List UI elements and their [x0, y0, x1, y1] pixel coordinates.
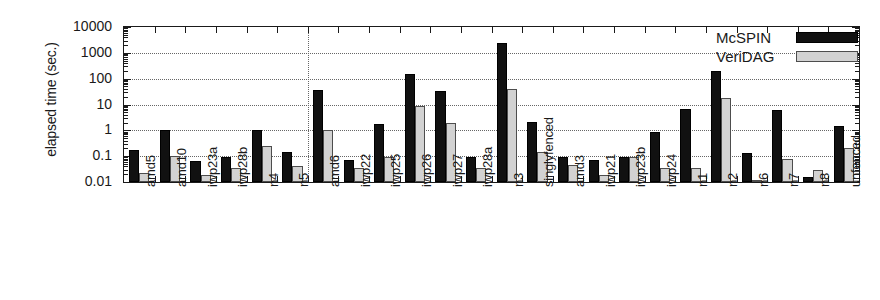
x-axis-tick-label: n3: [511, 173, 526, 187]
x-axis-tick-label: unfenced: [848, 135, 863, 187]
y-axis-minor-tick: [124, 134, 128, 135]
x-axis-tick-label: amd6: [327, 155, 342, 187]
y-axis-minor-tick: [124, 123, 128, 124]
x-axis-tick-label: amd10: [174, 148, 189, 187]
y-axis-tick-label: 10: [96, 96, 112, 112]
y-axis-tick-label: 0.01: [85, 173, 112, 189]
y-axis-minor-tick: [124, 63, 128, 64]
x-axis-tick-label: iwp27: [450, 154, 465, 187]
y-axis-minor-tick: [124, 97, 128, 98]
y-axis-minor-tick: [124, 160, 128, 161]
x-axis-tick-label: iwp28a: [480, 147, 495, 187]
y-axis-minor-tick: [855, 86, 859, 87]
x-axis-tick-label: iwp21: [603, 154, 618, 187]
y-axis-minor-tick: [124, 133, 128, 134]
x-axis-tick-label: n4: [266, 173, 281, 187]
x-axis-tick-mark: [369, 27, 370, 33]
chart-figure: elapsed time (sec.) 0.010.11101001000100…: [0, 0, 880, 300]
bar-mcspin-n7: [772, 110, 782, 182]
y-axis-minor-tick: [855, 89, 859, 90]
x-axis-tick-label: iwp26: [419, 154, 434, 187]
y-axis-minor-tick: [124, 55, 128, 56]
x-axis-tick-mark: [706, 27, 707, 33]
y-axis-minor-tick: [124, 118, 128, 119]
y-axis-minor-tick: [124, 83, 128, 84]
x-axis-tick-label: n1: [695, 173, 710, 187]
bar-mcspin-iwp24: [650, 132, 660, 182]
y-axis-minor-tick: [124, 159, 128, 160]
bar-mcspin-iwp28a: [466, 157, 476, 182]
x-axis-tick-mark: [553, 27, 554, 33]
x-axis-tick-mark: [185, 27, 186, 33]
x-axis-tick-mark: [216, 27, 217, 33]
bar-mcspin-iwp26: [405, 74, 415, 182]
bar-mcspin-n4: [252, 130, 262, 182]
group-separator-line: [308, 27, 309, 182]
y-axis-minor-tick: [855, 92, 859, 93]
x-axis-tick-mark: [675, 27, 676, 33]
y-axis-minor-tick: [124, 89, 128, 90]
bar-mcspin-amd6: [313, 90, 323, 182]
y-axis-minor-tick: [124, 80, 128, 81]
bar-mcspin-amd3: [558, 157, 568, 182]
y-axis-minor-tick: [124, 30, 128, 31]
y-axis-minor-tick: [124, 136, 128, 137]
x-axis-tick-mark: [430, 27, 431, 33]
y-axis-minor-tick: [124, 112, 128, 113]
y-axis-minor-tick: [124, 162, 128, 163]
legend-label-veridag: VeriDAG: [716, 47, 774, 66]
x-axis-tick-mark: [400, 27, 401, 33]
x-axis-tick-mark: [461, 27, 462, 33]
bar-veridag-n3: [507, 89, 517, 182]
y-axis-minor-tick: [124, 71, 128, 72]
x-axis-tick-label: n7: [786, 173, 801, 187]
y-axis-minor-tick: [855, 83, 859, 84]
y-axis-minor-tick: [124, 144, 128, 145]
bar-mcspin-n5: [282, 152, 292, 182]
y-axis-minor-tick: [855, 71, 859, 72]
y-axis-minor-tick: [855, 115, 859, 116]
bar-mcspin-n3: [497, 43, 507, 182]
legend-item-mcspin: McSPIN: [716, 28, 858, 47]
y-axis-tick-label: 0.1: [93, 147, 112, 163]
x-axis-tick-label: iwp25: [388, 154, 403, 187]
y-axis-minor-tick: [855, 84, 859, 85]
legend-label-mcspin: McSPIN: [716, 28, 771, 47]
y-axis-minor-tick: [124, 107, 128, 108]
y-axis-minor-tick: [124, 41, 128, 42]
y-axis-minor-tick: [124, 138, 128, 139]
x-axis-tick-mark: [308, 27, 309, 33]
x-axis-tick-label: iwp28b: [235, 147, 250, 187]
x-axis-tick-label: n5: [296, 173, 311, 187]
bar-mcspin-iwp23a: [190, 161, 200, 182]
x-axis-tick-label: iwp22: [358, 154, 373, 187]
x-axis-tick-label: iwp23b: [633, 147, 648, 187]
x-axis-tick-mark: [522, 27, 523, 33]
bar-mcspin-n8: [803, 177, 813, 182]
x-axis-tick-mark: [277, 27, 278, 33]
y-axis-minor-tick: [124, 115, 128, 116]
x-axis-tick-mark: [247, 27, 248, 33]
bar-mcspin-amd10: [160, 130, 170, 182]
y-axis-minor-tick: [855, 80, 859, 81]
y-axis-minor-tick: [124, 141, 128, 142]
y-axis-minor-tick: [855, 118, 859, 119]
y-axis-minor-tick: [855, 97, 859, 98]
y-axis-minor-tick: [855, 107, 859, 108]
x-axis-tick-labels: amd5amd10iwp23aiwp28bn4n5amd6iwp22iwp25i…: [123, 183, 860, 300]
y-axis-minor-tick: [124, 33, 128, 34]
bar-mcspin-amd5: [129, 150, 139, 182]
bar-veridag-n2: [721, 98, 731, 182]
y-axis-minor-tick: [124, 174, 128, 175]
x-axis-tick-label: n6: [756, 173, 771, 187]
x-axis-tick-label: amd5: [143, 155, 158, 187]
y-axis-minor-tick: [124, 57, 128, 58]
gridline-horizontal: [124, 105, 859, 106]
y-axis-minor-tick: [124, 84, 128, 85]
y-axis-minor-tick: [124, 170, 128, 171]
bar-mcspin-iwp23b: [619, 157, 629, 182]
bar-mcspin-iwp25: [374, 124, 384, 182]
y-axis-minor-tick: [124, 37, 128, 38]
y-axis-minor-tick: [124, 81, 128, 82]
bar-mcspin-n6: [742, 153, 752, 182]
